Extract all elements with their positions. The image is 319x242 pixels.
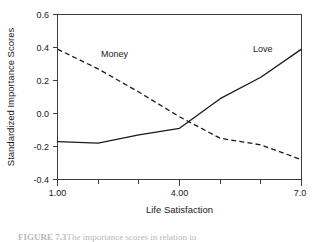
x-tick-label: 1.00 xyxy=(49,188,67,198)
figure-container: 0.6 0.4 0.2 0.0 -0.2 -0.4 1.00 4.00 7.0 … xyxy=(0,0,319,242)
series-label-money: Money xyxy=(101,49,129,59)
figure-caption-label: FIGURE 7.3 xyxy=(18,234,67,242)
line-chart: 0.6 0.4 0.2 0.0 -0.2 -0.4 1.00 4.00 7.0 … xyxy=(0,0,319,242)
x-tick-label: 4.00 xyxy=(171,188,189,198)
y-axis-title: Standardized Importance Scores xyxy=(5,28,16,167)
y-tick-label: 0.6 xyxy=(36,10,49,20)
x-axis-title: Life Satisfaction xyxy=(146,204,213,215)
plot-frame xyxy=(58,15,302,180)
y-tick-label: 0.2 xyxy=(36,76,49,86)
x-axis-ticks: 1.00 4.00 7.0 xyxy=(49,180,307,199)
series-line-love xyxy=(58,49,302,143)
y-tick-label: 0.4 xyxy=(36,43,49,53)
series-label-love: Love xyxy=(253,44,273,54)
y-tick-label: 0.0 xyxy=(36,109,49,119)
figure-caption-strip: FIGURE 7.3The importance scores in relat… xyxy=(0,234,319,242)
x-tick-label: 7.0 xyxy=(294,188,307,198)
figure-caption: FIGURE 7.3The importance scores in relat… xyxy=(18,234,196,242)
y-tick-label: -0.4 xyxy=(33,175,49,185)
figure-caption-text: The importance scores in relation to xyxy=(67,234,197,242)
y-tick-label: -0.2 xyxy=(33,142,49,152)
y-axis-ticks: 0.6 0.4 0.2 0.0 -0.2 -0.4 xyxy=(33,10,57,185)
